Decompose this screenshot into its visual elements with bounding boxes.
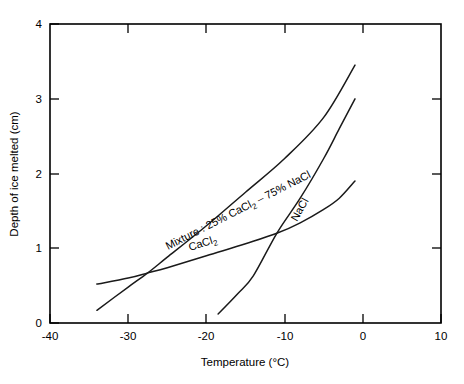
chart-container: -40 -30 -20 -10 0 10 0 1 2 3 4 Temperatu… xyxy=(0,0,464,384)
x-tick-label: -30 xyxy=(120,330,137,342)
x-axis-ticks-top xyxy=(128,24,363,33)
x-tick-label: -20 xyxy=(198,330,215,342)
y-axis-ticks-left xyxy=(50,24,59,323)
y-tick-label: 2 xyxy=(36,168,42,180)
y-axis-ticks-right xyxy=(432,99,441,248)
y-axis-title: Depth of ice melted (cm) xyxy=(8,111,20,236)
y-tick-label: 4 xyxy=(36,18,43,30)
x-tick-label: -40 xyxy=(42,330,59,342)
y-tick-label: 1 xyxy=(36,242,42,254)
series-line-mixture-25-cacl2-75-nacl xyxy=(97,65,355,310)
series-line-cacl2 xyxy=(97,181,355,284)
y-tick-label: 3 xyxy=(36,93,42,105)
y-tick-label: 0 xyxy=(36,317,42,329)
x-tick-label: 10 xyxy=(435,330,448,342)
x-axis-ticks-bottom xyxy=(50,314,441,323)
x-tick-label: 0 xyxy=(360,330,366,342)
x-axis-tick-labels: -40 -30 -20 -10 0 10 xyxy=(42,330,448,342)
plot-frame xyxy=(50,24,441,323)
line-chart: -40 -30 -20 -10 0 10 0 1 2 3 4 Temperatu… xyxy=(0,0,464,384)
series-label-cacl2-subscript: 2 xyxy=(212,238,220,248)
y-axis-tick-labels: 0 1 2 3 4 xyxy=(36,18,43,329)
x-axis-title: Temperature (°C) xyxy=(201,356,289,368)
x-tick-label: -10 xyxy=(277,330,294,342)
